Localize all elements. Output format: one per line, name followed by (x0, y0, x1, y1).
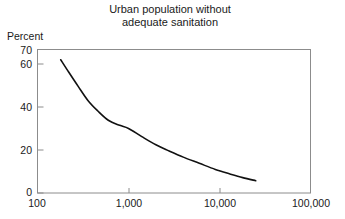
x-axis-ticks (38, 188, 311, 193)
data-series-line (61, 60, 256, 181)
plot-frame (38, 50, 311, 194)
plot-area (0, 0, 345, 219)
chart-figure: Urban population without adequate sanita… (0, 0, 345, 219)
y-axis-ticks (38, 50, 44, 194)
